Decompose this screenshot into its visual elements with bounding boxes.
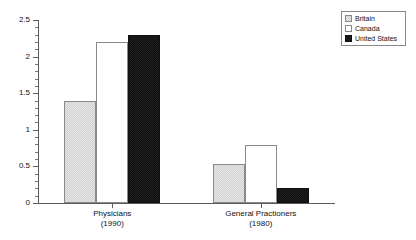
bar-britain-group-2 (213, 164, 245, 203)
group-label-year: (1990) (42, 219, 182, 229)
legend-item-canada: Canada (345, 24, 402, 33)
chart-legend: Britain Canada United States (341, 11, 406, 46)
legend-item-united-states: United States (345, 34, 402, 43)
plot-area (38, 20, 335, 203)
legend-swatch-canada-icon (345, 25, 352, 32)
legend-label-united-states: United States (355, 35, 397, 43)
bar-canada-group-2 (245, 145, 277, 203)
legend-label-canada: Canada (355, 25, 380, 33)
bar-canada-group-1 (96, 42, 128, 203)
group-label-2: General Practioners(1980) (191, 209, 331, 229)
bar-britain-group-1 (64, 101, 96, 203)
y-tick-label: 2.5 (19, 14, 30, 25)
bar-united-states-group-2 (277, 188, 309, 203)
bar-united-states-group-1 (128, 35, 160, 203)
y-tick-label: 1.5 (19, 87, 30, 98)
legend-swatch-britain-icon (345, 15, 352, 22)
y-tick-label: 2 (26, 51, 30, 62)
group-label-name: Physicians (93, 209, 131, 218)
y-tick-0: 0 (33, 203, 38, 204)
group-label-year: (1980) (191, 219, 331, 229)
x-group-tick-2 (261, 203, 262, 208)
x-axis-line (38, 203, 335, 204)
legend-label-britain: Britain (355, 15, 375, 23)
x-group-tick-1 (112, 203, 113, 208)
y-tick-label: 0 (26, 197, 30, 208)
y-tick-label: 0.5 (19, 160, 30, 171)
legend-swatch-united-states-icon (345, 35, 352, 42)
group-label-1: Physicians(1990) (42, 209, 182, 229)
group-label-name: General Practioners (225, 209, 296, 218)
y-tick-mark (33, 203, 38, 204)
bar-chart: 00.511.522.5 Physicians(1990)General Pra… (0, 0, 416, 240)
legend-item-britain: Britain (345, 14, 402, 23)
y-tick-label: 1 (26, 124, 30, 135)
